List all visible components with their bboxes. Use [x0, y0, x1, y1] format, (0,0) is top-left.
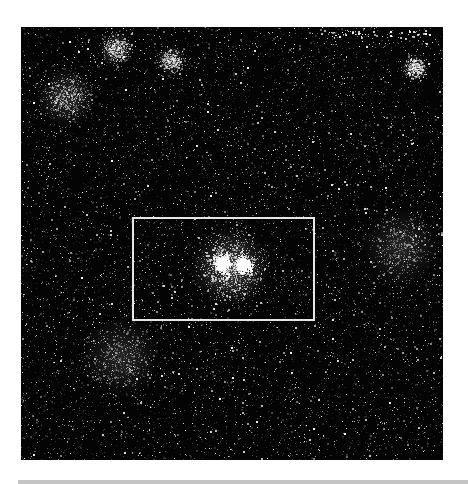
bottom-divider [18, 480, 468, 484]
region-of-interest-box [132, 217, 315, 321]
star-field-image [21, 27, 443, 460]
